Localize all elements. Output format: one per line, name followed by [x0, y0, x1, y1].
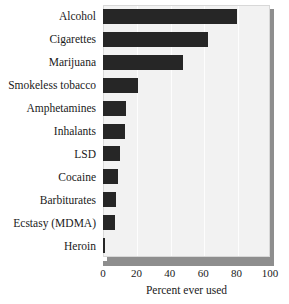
bar: [103, 55, 183, 70]
x-tick-label: 80: [231, 267, 242, 279]
category-label: LSD: [74, 143, 96, 165]
x-tick-label: 0: [100, 267, 106, 279]
x-tick-label: 60: [198, 267, 209, 279]
category-label: Ecstasy (MDMA): [13, 212, 96, 234]
bars-layer: [103, 5, 270, 257]
x-axis-ticks: 020406080100: [0, 267, 289, 283]
bar: [103, 215, 115, 230]
category-label: Cigarettes: [49, 28, 96, 50]
x-tick-label: 100: [262, 267, 279, 279]
x-axis-line: [103, 261, 274, 266]
x-tick-label: 40: [164, 267, 175, 279]
bar: [103, 169, 118, 184]
bar: [103, 192, 116, 207]
bar: [103, 32, 208, 47]
category-label: Heroin: [64, 235, 96, 257]
category-label: Marijuana: [49, 51, 96, 73]
bar: [103, 78, 138, 93]
category-label: Barbiturates: [40, 189, 96, 211]
bar: [103, 146, 120, 161]
category-label: Cocaine: [58, 166, 96, 188]
category-label: Amphetamines: [26, 97, 96, 119]
bar: [103, 9, 237, 24]
bar: [103, 124, 125, 139]
bar-chart-figure: AlcoholCigarettesMarijuanaSmokeless toba…: [0, 0, 289, 304]
bar: [103, 238, 105, 253]
x-axis-title: Percent ever used: [103, 284, 270, 296]
category-label: Smokeless tobacco: [8, 74, 96, 96]
category-label: Alcohol: [59, 5, 96, 27]
x-tick-label: 20: [131, 267, 142, 279]
bar: [103, 101, 126, 116]
category-label: Inhalants: [54, 120, 96, 142]
category-axis: AlcoholCigarettesMarijuanaSmokeless toba…: [0, 5, 99, 253]
